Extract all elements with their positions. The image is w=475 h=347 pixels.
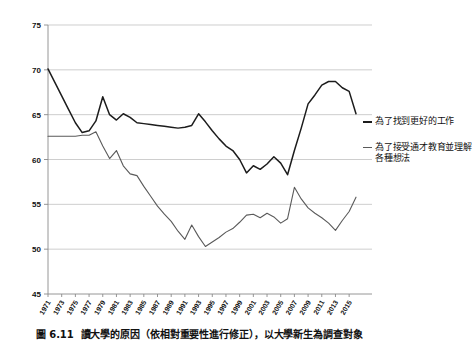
x-tick-label: 1981 — [106, 299, 120, 316]
x-tick-label: 2015 — [339, 299, 353, 316]
line-swatch-icon — [363, 121, 372, 123]
x-tick-label: 1997 — [216, 299, 230, 316]
data-series-group — [48, 69, 356, 247]
x-tick-label: 1985 — [134, 299, 148, 316]
series-line-0 — [48, 69, 356, 175]
y-tick-label: 45 — [32, 290, 41, 299]
x-tick-label: 1987 — [148, 299, 162, 316]
gridlines-group — [48, 25, 372, 249]
legend-item-label: 為了接受通才教育並理解各種想法 — [375, 142, 475, 165]
chart-legend: 為了找到更好的工作 為了接受通才教育並理解各種想法 — [363, 116, 475, 179]
figure-container: 45505560657075 1971197319751977197919811… — [0, 0, 475, 347]
x-tick-label: 2011 — [312, 299, 326, 316]
x-tick-label: 1993 — [189, 299, 203, 316]
x-tick-labels-group: 1971197319751977197919811983198519871989… — [38, 299, 353, 316]
y-tick-label: 65 — [32, 111, 41, 120]
figure-caption: 圖 6.11讀大學的原因（依相對重要性進行修正），以大學新生為調查對象 — [36, 326, 363, 341]
line-swatch-icon — [363, 147, 372, 149]
y-tick-label: 70 — [32, 66, 41, 75]
x-tick-label: 2001 — [243, 299, 257, 316]
axes-group — [44, 25, 372, 297]
figure-number: 圖 6.11 — [36, 329, 74, 340]
y-tick-label: 55 — [32, 200, 41, 209]
figure-caption-text: 讀大學的原因（依相對重要性進行修正），以大學新生為調查對象 — [81, 329, 363, 340]
x-tick-label: 1971 — [38, 299, 52, 316]
x-tick-label: 2003 — [257, 299, 271, 316]
x-tick-label: 2007 — [284, 299, 298, 316]
x-tick-label: 1979 — [93, 299, 107, 316]
x-tick-label: 1975 — [65, 299, 79, 316]
x-tick-label: 2013 — [325, 299, 339, 316]
x-tick-label: 2005 — [271, 299, 285, 316]
x-tick-label: 1989 — [161, 299, 175, 316]
y-tick-labels-group: 45505560657075 — [32, 21, 41, 299]
x-tick-label: 1983 — [120, 299, 134, 316]
x-tick-label: 2009 — [298, 299, 312, 316]
legend-item-1[interactable]: 為了接受通才教育並理解各種想法 — [363, 142, 475, 165]
x-tick-label: 1991 — [175, 299, 189, 316]
legend-item-label: 為了找到更好的工作 — [375, 116, 454, 128]
series-line-1 — [48, 132, 356, 247]
y-tick-label: 75 — [32, 21, 41, 30]
y-tick-label: 50 — [32, 245, 41, 254]
legend-item-0[interactable]: 為了找到更好的工作 — [363, 116, 475, 128]
x-tick-label: 1995 — [202, 299, 216, 316]
x-tick-label: 1973 — [52, 299, 66, 316]
x-tick-label: 1977 — [79, 299, 93, 316]
x-tick-label: 1999 — [230, 299, 244, 316]
y-tick-label: 60 — [32, 156, 41, 165]
